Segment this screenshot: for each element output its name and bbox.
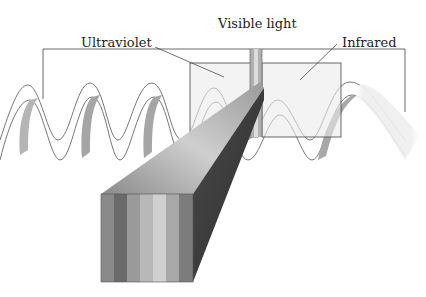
spectrum-beam — [101, 82, 264, 282]
ultraviolet-label: Ultraviolet — [81, 35, 152, 50]
infrared-label: Infrared — [342, 35, 397, 50]
visible-light-label: Visible light — [218, 16, 297, 31]
infrared-box — [262, 63, 341, 137]
